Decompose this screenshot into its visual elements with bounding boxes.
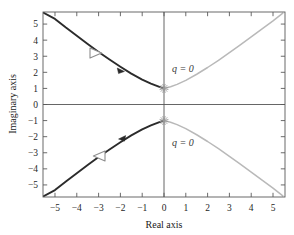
y-tick-label: −4 [28,164,38,174]
x-tick-label: 2 [205,203,210,213]
y-tick-label: 1 [33,84,38,94]
figure-background [0,0,294,235]
y-tick-label: 0 [33,100,38,110]
y-axis-title: Imaginary axis [7,74,18,134]
x-tick-label: 5 [271,203,276,213]
root-locus-figure: −5−4−3−2−1012345 543210−1−2−3−4−5 Real a… [0,0,294,235]
y-tick-label: 3 [33,52,38,62]
y-tick-label: 5 [33,19,38,29]
lower-branch-annotation: q = 0 [172,137,194,148]
x-tick-label: 4 [249,203,254,213]
x-tick-label: −3 [94,203,104,213]
y-tick-label: −3 [28,148,38,158]
x-tick-label: 0 [162,203,167,213]
x-tick-label: 1 [183,203,188,213]
x-tick-label: −4 [72,203,82,213]
y-tick-label: 2 [33,68,38,78]
x-tick-label: −1 [137,203,147,213]
x-tick-label: −5 [50,203,60,213]
y-tick-label: −5 [28,180,38,190]
x-axis-title: Real axis [146,219,183,230]
upper-branch-annotation: q = 0 [172,63,194,74]
y-tick-label: −1 [28,116,38,126]
x-tick-label: 3 [227,203,232,213]
y-tick-label: −2 [28,132,38,142]
x-tick-label: −2 [115,203,125,213]
y-tick-label: 4 [33,36,38,46]
plot-canvas: −5−4−3−2−1012345 543210−1−2−3−4−5 Real a… [0,0,294,235]
